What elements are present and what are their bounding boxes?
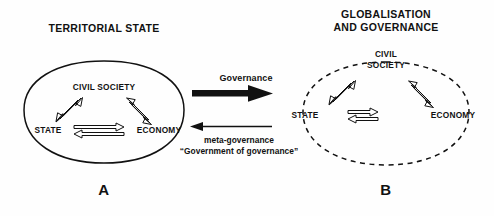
panel-a-arrow-state-civil-society	[56, 98, 83, 123]
panel-b-arrow-state-economy	[348, 108, 378, 123]
panel-a-arrow-state-economy	[74, 123, 124, 138]
figure-canvas: TERRITORIAL STATE CIVIL SOCIETY STATE EC…	[0, 0, 494, 216]
panel-b-title-line2: AND GOVERNANCE	[333, 21, 438, 33]
panel-b-letter: B	[380, 181, 391, 198]
panel-a-node-civil-society: CIVIL SOCIETY	[73, 82, 136, 92]
panel-a-letter: A	[98, 181, 109, 198]
governance-diagram: TERRITORIAL STATE CIVIL SOCIETY STATE EC…	[0, 0, 494, 216]
flow-meta-governance-label-line2: “Government of governance”	[180, 146, 299, 156]
panel-b-node-civil-society-line1: CIVIL	[375, 49, 397, 59]
panel-b-arrow-civil-society-economy	[409, 81, 434, 108]
panel-b-node-civil-society-line2: SOCIETY	[367, 60, 405, 70]
panel-a-node-state: STATE	[35, 125, 62, 135]
panel-b-node-economy: ECONOMY	[431, 110, 476, 120]
flow-governance-arrow	[192, 85, 273, 102]
panel-a-boundary	[24, 61, 184, 163]
panel-b-node-state: STATE	[292, 110, 319, 120]
panel-b-title-line1: GLOBALISATION	[341, 8, 431, 20]
panel-a-node-economy: ECONOMY	[137, 125, 182, 135]
flow-meta-governance-arrow	[190, 122, 272, 131]
flow-governance-label: Governance	[219, 73, 272, 83]
panel-a-title: TERRITORIAL STATE	[48, 22, 159, 34]
panel-a-arrow-civil-society-economy	[127, 98, 152, 125]
panel-b-arrow-state-civil-society	[329, 81, 356, 106]
flow-meta-governance-label-line1: meta-governance	[204, 135, 274, 145]
